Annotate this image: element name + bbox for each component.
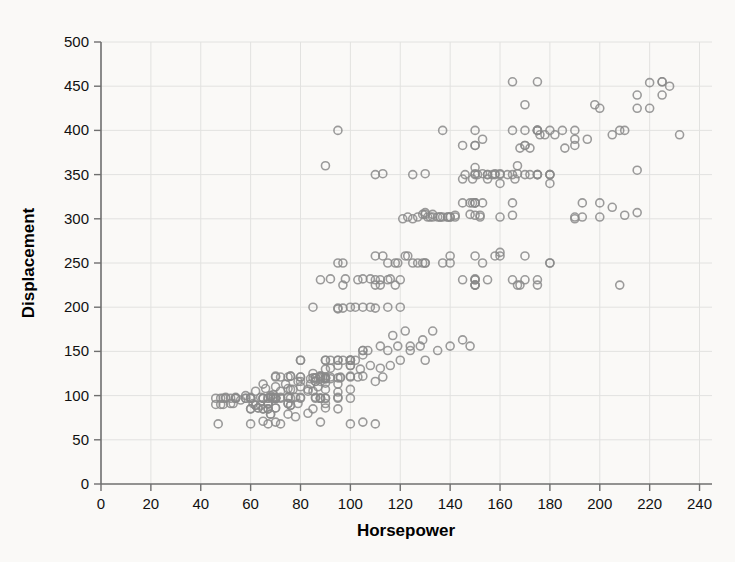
y-tick-label: 400: [64, 121, 89, 138]
y-tick-label: 350: [64, 166, 89, 183]
x-tick-label: 180: [537, 495, 562, 512]
x-tick-label: 40: [192, 495, 209, 512]
x-tick-label: 220: [637, 495, 662, 512]
y-tick-label: 200: [64, 298, 89, 315]
scatter-plot: 050100150200250300350400450500 020406080…: [0, 0, 735, 562]
y-tick-label: 450: [64, 77, 89, 94]
y-tick-label: 500: [64, 33, 89, 50]
chart-figure: 050100150200250300350400450500 020406080…: [0, 0, 735, 562]
y-tick-label: 300: [64, 210, 89, 227]
x-tick-label: 240: [687, 495, 712, 512]
y-tick-label: 150: [64, 342, 89, 359]
x-tick-label: 160: [488, 495, 513, 512]
x-tick-label: 200: [587, 495, 612, 512]
y-tick-label: 100: [64, 387, 89, 404]
x-tick-label: 20: [143, 495, 160, 512]
y-tick-label: 0: [81, 475, 89, 492]
x-tick-label: 80: [292, 495, 309, 512]
y-tick-label: 250: [64, 254, 89, 271]
y-axis-title: Displacement: [19, 207, 38, 318]
x-tick-label: 100: [338, 495, 363, 512]
x-tick-label: 140: [438, 495, 463, 512]
x-tick-label: 60: [242, 495, 259, 512]
x-tick-label: 0: [97, 495, 105, 512]
x-axis-title: Horsepower: [357, 521, 456, 540]
y-tick-label: 50: [72, 431, 89, 448]
x-tick-label: 120: [388, 495, 413, 512]
